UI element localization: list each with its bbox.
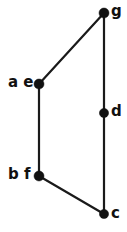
edge-bf-c: [39, 176, 104, 214]
vertex-label-ae: a e: [8, 75, 34, 90]
vertex-ae[interactable]: [34, 79, 44, 89]
vertex-label-d: d: [111, 104, 122, 119]
vertex-d[interactable]: [99, 108, 108, 117]
vertices-group: [34, 8, 109, 219]
graph-svg: [0, 0, 127, 232]
vertex-g[interactable]: [99, 8, 109, 18]
vertex-label-bf: b f: [8, 167, 31, 182]
edges-group: [39, 13, 104, 214]
vertex-label-c: c: [111, 206, 120, 221]
vertex-c[interactable]: [99, 209, 108, 218]
lattice-diagram-canvas: ga edb fc: [0, 0, 127, 232]
vertex-bf[interactable]: [34, 171, 44, 181]
vertex-label-g: g: [111, 4, 122, 19]
edge-ae-g: [39, 13, 104, 84]
